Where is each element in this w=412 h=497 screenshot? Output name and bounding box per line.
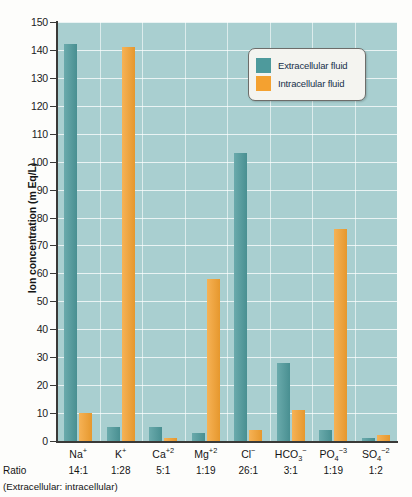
y-tick-label: 110: [8, 128, 48, 140]
bar: [249, 430, 262, 441]
ratio-row-label: Ratio: [3, 465, 26, 476]
y-axis-line: [56, 21, 58, 442]
bar: [64, 44, 77, 441]
bar: [334, 229, 347, 441]
bar: [122, 47, 135, 441]
y-tick-mark: [50, 273, 57, 274]
y-tick-mark: [50, 357, 57, 358]
legend-label-extracellular: Extracellular fluid: [278, 60, 348, 71]
y-tick-mark: [50, 134, 57, 135]
gridline-vertical: [227, 22, 228, 441]
bar: [319, 430, 332, 441]
legend-item-extracellular: Extracellular fluid: [256, 58, 358, 73]
y-tick-label: 40: [8, 323, 48, 335]
x-axis-line: [56, 441, 398, 443]
gridline-vertical: [142, 22, 143, 441]
y-tick-mark: [50, 385, 57, 386]
gridline-vertical: [185, 22, 186, 441]
gridline-vertical: [100, 22, 101, 441]
y-tick-mark: [50, 413, 57, 414]
legend: Extracellular fluid Intracellular fluid: [248, 48, 366, 101]
y-tick-mark: [50, 329, 57, 330]
y-tick-mark: [50, 22, 57, 23]
y-tick-label: 50: [8, 295, 48, 307]
y-tick-label: 150: [8, 16, 48, 28]
y-tick-label: 60: [8, 267, 48, 279]
y-tick-mark: [50, 190, 57, 191]
y-tick-label: 30: [8, 351, 48, 363]
bar: [207, 279, 220, 441]
y-tick-label: 100: [8, 156, 48, 168]
y-tick-mark: [50, 441, 57, 442]
y-tick-mark: [50, 162, 57, 163]
y-tick-mark: [50, 245, 57, 246]
legend-label-intracellular: Intracellular fluid: [278, 78, 344, 89]
y-tick-mark: [50, 78, 57, 79]
bar: [79, 413, 92, 441]
bar: [292, 410, 305, 441]
legend-swatch-intracellular: [256, 76, 271, 91]
x-tick-label: SO4−2: [348, 446, 404, 463]
y-tick-label: 140: [8, 44, 48, 56]
bar: [192, 433, 205, 441]
legend-swatch-extracellular: [256, 58, 271, 73]
y-tick-label: 130: [8, 72, 48, 84]
ratio-value: 1:2: [348, 465, 404, 476]
y-tick-label: 70: [8, 239, 48, 251]
y-tick-label: 120: [8, 100, 48, 112]
y-tick-label: 0: [8, 435, 48, 447]
ratio-caption: (Extracellular: intracellular): [3, 481, 118, 492]
bar: [234, 153, 247, 441]
bar: [107, 427, 120, 441]
y-tick-label: 10: [8, 407, 48, 419]
y-tick-mark: [50, 50, 57, 51]
y-tick-mark: [50, 301, 57, 302]
legend-item-intracellular: Intracellular fluid: [256, 76, 358, 91]
y-tick-label: 90: [8, 184, 48, 196]
y-tick-label: 20: [8, 379, 48, 391]
y-tick-mark: [50, 106, 57, 107]
bar: [149, 427, 162, 441]
y-tick-mark: [50, 218, 57, 219]
y-tick-label: 80: [8, 212, 48, 224]
bar: [277, 363, 290, 441]
